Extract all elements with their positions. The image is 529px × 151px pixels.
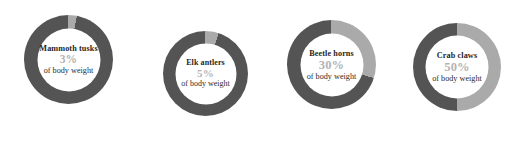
donut-percent-value: 30% <box>307 58 357 72</box>
donut-center-label: Crab claws 50% of body weight <box>432 51 482 83</box>
donut-chart-row: Mammoth tusks 3% of body weight Elk antl… <box>0 0 529 151</box>
donut-sublabel: of body weight <box>181 80 229 89</box>
donut-center-label: Beetle horns 30% of body weight <box>307 48 357 80</box>
donut-sublabel: of body weight <box>432 74 482 83</box>
donut-center-label: Mammoth tusks 3% of body weight <box>39 44 97 75</box>
donut-sublabel: of body weight <box>39 66 97 75</box>
donut-percent-value: 50% <box>432 60 482 74</box>
donut-center-label: Elk antlers 5% of body weight <box>181 58 229 88</box>
donut-category-label: Mammoth tusks <box>39 44 97 53</box>
donut-chart-beetle-horns: Beetle horns 30% of body weight <box>287 20 376 109</box>
donut-chart-mammoth-tusks: Mammoth tusks 3% of body weight <box>24 15 113 104</box>
donut-percent-value: 3% <box>39 53 97 66</box>
donut-sublabel: of body weight <box>307 72 357 81</box>
donut-chart-elk-antlers: Elk antlers 5% of body weight <box>163 31 248 116</box>
donut-category-label: Beetle horns <box>307 48 357 57</box>
donut-chart-crab-claws: Crab claws 50% of body weight <box>413 23 501 111</box>
donut-category-label: Elk antlers <box>181 58 229 67</box>
donut-category-label: Crab claws <box>432 51 482 60</box>
